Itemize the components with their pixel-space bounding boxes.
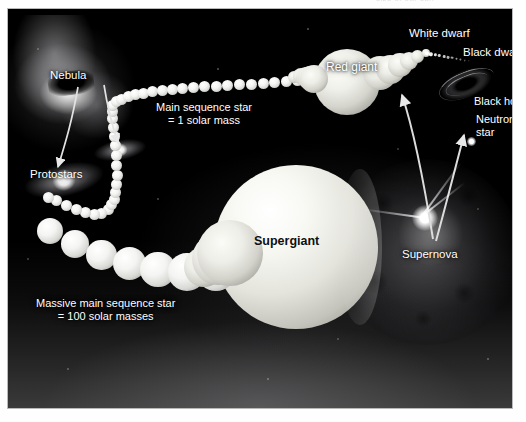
label-supergiant: Supergiant [254, 235, 319, 248]
label-massive-line2: = 100 solar masses [36, 310, 175, 323]
label-massive-main-sequence-star: Massive main sequence star = 100 solar m… [36, 297, 175, 323]
label-red-giant: Red giant [326, 61, 377, 74]
stellar-evolution-figure: size of our sun [0, 0, 526, 422]
label-black-dwarf: Black dwarf [463, 46, 512, 59]
label-white-dwarf: White dwarf [409, 27, 470, 40]
label-nebula: Nebula [50, 69, 86, 82]
label-black-hole: Black hole [474, 95, 512, 108]
label-protostars: Protostars [30, 168, 82, 181]
diagram-plate: Nebula Protostars Main sequence star = 1… [8, 9, 512, 408]
label-neutron-line1: Neutron [476, 113, 512, 125]
arrow-nebula-to-protostar-upper [104, 85, 118, 143]
label-neutron-line2: star [476, 126, 512, 139]
arrow-nebula-to-protostar-lower [58, 87, 78, 167]
label-main-sequence-line2: = 1 solar mass [156, 114, 252, 127]
label-main-sequence-star: Main sequence star = 1 solar mass [156, 101, 252, 127]
top-caption: size of our sun [330, 0, 480, 4]
label-main-sequence-line1: Main sequence star [156, 101, 252, 113]
label-massive-line1: Massive main sequence star [36, 297, 175, 309]
label-neutron-star: Neutron star [476, 113, 512, 139]
label-supernova: Supernova [402, 248, 458, 261]
